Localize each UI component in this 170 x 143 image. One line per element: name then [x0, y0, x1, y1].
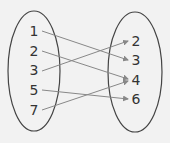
domain-value-7: 7 [30, 102, 39, 118]
domain-labels: 12357 [30, 23, 39, 118]
domain-value-1: 1 [30, 23, 39, 39]
arrows-group [42, 31, 128, 110]
domain-value-2: 2 [30, 43, 39, 59]
range-value-6: 6 [132, 91, 141, 107]
mapping-diagram: 12357 2346 [0, 0, 170, 143]
arrow-7-to-4 [42, 81, 128, 110]
range-labels: 2346 [132, 33, 141, 107]
range-value-3: 3 [132, 52, 141, 68]
arrow-5-to-6 [42, 90, 128, 99]
range-value-4: 4 [132, 72, 141, 88]
domain-value-5: 5 [30, 82, 39, 98]
diagram-svg: 12357 2346 [0, 0, 170, 143]
range-value-2: 2 [132, 33, 141, 49]
domain-value-3: 3 [30, 62, 39, 78]
